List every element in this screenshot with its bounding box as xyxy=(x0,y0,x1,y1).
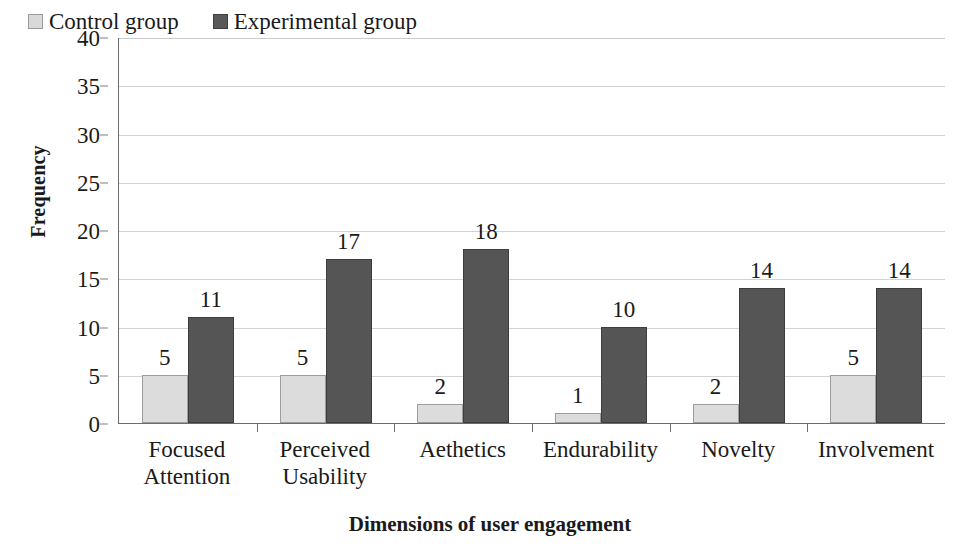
x-axis-category-label-line: Endurability xyxy=(531,436,669,463)
bar[interactable] xyxy=(417,404,463,423)
y-axis-tick-label: 0 xyxy=(89,413,101,436)
y-axis-tick-mark xyxy=(100,182,108,183)
x-axis-category-label: FocusedAttention xyxy=(118,436,256,490)
y-axis-tick-mark xyxy=(100,375,108,376)
y-axis-tick-mark xyxy=(100,38,108,39)
y-axis-tick-labels: 4035302520151050 xyxy=(28,38,100,424)
bar[interactable] xyxy=(188,317,234,423)
plot-area: 511517218110214514 xyxy=(118,38,945,424)
x-axis-tick-mark xyxy=(394,423,395,432)
legend-item-control-group: Control group xyxy=(28,10,179,33)
bar[interactable] xyxy=(555,413,601,423)
x-axis-category-label-line: Aethetics xyxy=(394,436,532,463)
bar-wrapper: 17 xyxy=(326,38,372,423)
bar[interactable] xyxy=(601,327,647,424)
bar-value-label: 2 xyxy=(434,375,446,398)
bar[interactable] xyxy=(876,288,922,423)
bar-wrapper: 1 xyxy=(555,38,601,423)
x-axis-category-label: Involvement xyxy=(807,436,945,490)
x-axis-category-labels: FocusedAttentionPerceivedUsabilityAethet… xyxy=(118,436,945,490)
bar-value-label: 5 xyxy=(847,346,859,369)
bar-wrapper: 10 xyxy=(601,38,647,423)
y-axis-tick-mark xyxy=(100,86,108,87)
legend-swatch-experimental-group-icon xyxy=(213,14,228,29)
bar-value-label: 17 xyxy=(337,230,360,253)
x-axis-category-label: Novelty xyxy=(669,436,807,490)
bar-chart: Control group Experimental group Frequen… xyxy=(0,0,980,557)
y-axis-tick-label: 40 xyxy=(77,27,100,50)
y-axis-tick-label: 5 xyxy=(89,364,101,387)
bar-group: 214 xyxy=(670,38,808,423)
x-axis-category-label-line: Attention xyxy=(118,463,256,490)
bar-wrapper: 5 xyxy=(830,38,876,423)
x-axis-category-label: Aethetics xyxy=(394,436,532,490)
y-axis-tick-mark xyxy=(100,134,108,135)
x-axis-category-label-line: Usability xyxy=(256,463,394,490)
bar-value-label: 11 xyxy=(200,288,222,311)
x-axis-category-label: PerceivedUsability xyxy=(256,436,394,490)
bar-wrapper: 2 xyxy=(417,38,463,423)
y-axis-tick-mark xyxy=(100,424,108,425)
bar[interactable] xyxy=(830,375,876,423)
bar-value-label: 18 xyxy=(475,220,498,243)
bar[interactable] xyxy=(463,249,509,423)
legend-item-experimental-group: Experimental group xyxy=(213,10,417,33)
bar-group: 110 xyxy=(532,38,670,423)
x-axis-category-label: Endurability xyxy=(531,436,669,490)
x-axis-category-label-line: Perceived xyxy=(256,436,394,463)
bar-wrapper: 18 xyxy=(463,38,509,423)
bar-group: 517 xyxy=(257,38,395,423)
x-axis-category-label-line: Focused xyxy=(118,436,256,463)
bar-value-label: 2 xyxy=(710,375,722,398)
y-axis-tick-label: 25 xyxy=(77,171,100,194)
legend-swatch-control-group-icon xyxy=(28,14,43,29)
bar-wrapper: 2 xyxy=(693,38,739,423)
bar-group: 511 xyxy=(119,38,257,423)
y-axis-tick-label: 10 xyxy=(77,316,100,339)
bar-value-label: 5 xyxy=(159,346,171,369)
bar[interactable] xyxy=(326,259,372,423)
x-axis-tick-mark xyxy=(670,423,671,432)
bar-group: 218 xyxy=(394,38,532,423)
x-axis-category-label-line: Involvement xyxy=(807,436,945,463)
y-axis-tick-mark xyxy=(100,231,108,232)
bar-wrapper: 14 xyxy=(876,38,922,423)
bar[interactable] xyxy=(280,375,326,423)
legend-label-control-group: Control group xyxy=(49,10,179,33)
bar-value-label: 14 xyxy=(750,259,773,282)
bar-value-label: 14 xyxy=(888,259,911,282)
bar-wrapper: 11 xyxy=(188,38,234,423)
bar-groups: 511517218110214514 xyxy=(119,38,945,423)
bar-value-label: 5 xyxy=(297,346,309,369)
bar[interactable] xyxy=(693,404,739,423)
x-axis-title: Dimensions of user engagement xyxy=(0,512,980,537)
bar-wrapper: 5 xyxy=(280,38,326,423)
x-axis-category-label-line: Novelty xyxy=(669,436,807,463)
bar-value-label: 10 xyxy=(612,298,635,321)
x-axis-tick-mark xyxy=(807,423,808,432)
y-axis-tick-label: 30 xyxy=(77,123,100,146)
legend-label-experimental-group: Experimental group xyxy=(234,10,417,33)
y-axis-tick-mark xyxy=(100,279,108,280)
x-axis-tick-mark xyxy=(532,423,533,432)
y-axis-tick-label: 35 xyxy=(77,75,100,98)
y-axis-tick-label: 20 xyxy=(77,220,100,243)
bar-group: 514 xyxy=(807,38,945,423)
y-axis-tick-mark xyxy=(100,327,108,328)
y-axis-tick-label: 15 xyxy=(77,268,100,291)
bar-wrapper: 5 xyxy=(142,38,188,423)
bar[interactable] xyxy=(142,375,188,423)
bar-wrapper: 14 xyxy=(739,38,785,423)
bar[interactable] xyxy=(739,288,785,423)
x-axis-tick-mark xyxy=(257,423,258,432)
bar-value-label: 1 xyxy=(572,384,584,407)
